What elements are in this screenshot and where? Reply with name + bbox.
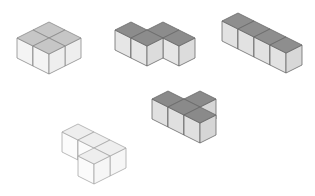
shape-i-tetromino-bar <box>222 13 302 73</box>
shape-square-2x2-block <box>17 22 81 74</box>
tetromino-cube-diagram <box>0 0 315 196</box>
cube <box>33 38 65 74</box>
cube <box>184 107 216 143</box>
cube <box>78 148 110 184</box>
shape-l-tetromino-outline <box>62 124 126 184</box>
isometric-cube-scene <box>0 0 315 196</box>
cube <box>131 30 163 66</box>
shape-t-tetromino <box>152 91 216 143</box>
shape-s-tetromino <box>115 22 195 66</box>
cube <box>270 37 302 73</box>
cube <box>163 30 195 66</box>
